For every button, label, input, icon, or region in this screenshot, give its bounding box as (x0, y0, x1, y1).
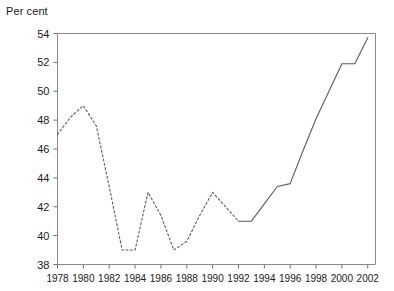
x-tick-label: 1998 (305, 273, 328, 284)
y-tick-label: 46 (37, 143, 49, 155)
y-tick-label: 44 (37, 172, 49, 184)
x-tick-label: 1986 (150, 273, 173, 284)
x-tick-label: 1988 (176, 273, 199, 284)
y-tick-label: 42 (37, 201, 49, 213)
x-tick-label: 1990 (201, 273, 224, 284)
x-tick-label: 1978 (46, 273, 69, 284)
y-tick-label: 48 (37, 114, 49, 126)
x-tick-label: 1984 (124, 273, 147, 284)
x-tick-label: 1992 (227, 273, 250, 284)
x-tick-label: 2002 (357, 273, 380, 284)
x-tick-label: 1980 (72, 273, 95, 284)
y-tick-label: 52 (37, 56, 49, 68)
x-axis-ticks: 1978198019821984198619881990199219941996… (46, 265, 379, 284)
x-tick-label: 2000 (331, 273, 354, 284)
y-tick-label: 40 (37, 230, 49, 242)
y-tick-label: 38 (37, 259, 49, 271)
plot-frame (58, 34, 376, 265)
data-series-group (58, 38, 368, 250)
series-line-1 (58, 106, 239, 250)
x-tick-label: 1994 (253, 273, 276, 284)
series-line-2 (238, 38, 367, 221)
x-tick-label: 1996 (279, 273, 302, 284)
x-tick-label: 1982 (98, 273, 121, 284)
y-tick-label: 54 (37, 28, 49, 40)
chart-plot-svg: 384042444648505254 197819801982198419861… (0, 0, 394, 291)
y-axis-ticks: 384042444648505254 (37, 28, 57, 271)
plot-border (58, 34, 376, 265)
chart-figure: Per cent 384042444648505254 197819801982… (0, 0, 394, 291)
y-tick-label: 50 (37, 85, 49, 97)
